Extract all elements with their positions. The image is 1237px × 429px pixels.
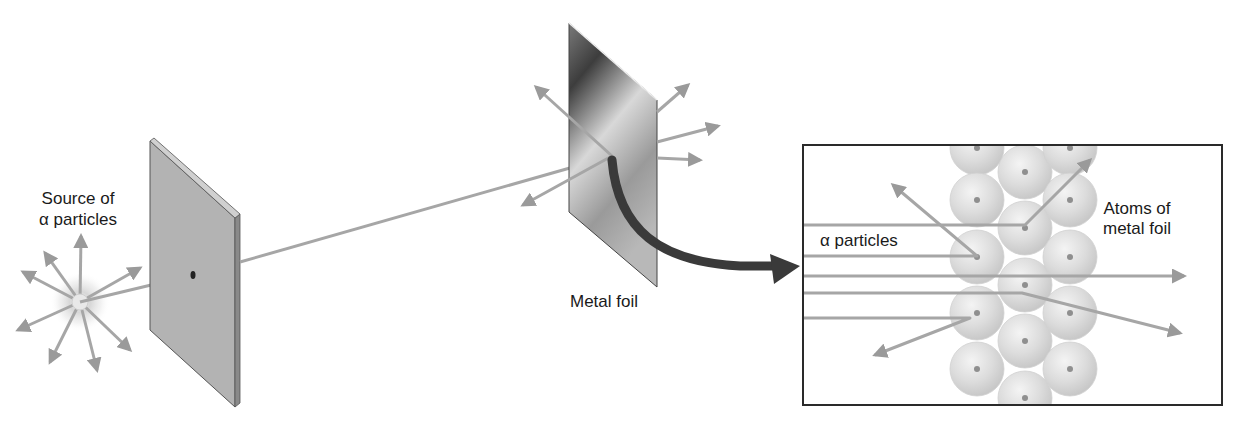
- atom: [1043, 342, 1097, 396]
- atom: [998, 258, 1052, 312]
- nucleus: [974, 197, 980, 203]
- nucleus: [1022, 169, 1028, 175]
- source-ray-arrow: [80, 236, 81, 302]
- nucleus: [974, 366, 980, 372]
- scatter-ray-arrow: [657, 158, 700, 160]
- lead-screen: [150, 138, 240, 407]
- metal-foil-label: Metal foil: [570, 292, 638, 312]
- alpha-beam: [240, 156, 612, 262]
- source-label-line1: Source of: [42, 189, 115, 209]
- atom: [1043, 121, 1097, 175]
- metal-foil: [569, 23, 657, 287]
- nucleus: [1022, 395, 1028, 401]
- atom: [950, 121, 1004, 175]
- atomic-view-inset: [803, 121, 1222, 425]
- nucleus: [1067, 366, 1073, 372]
- scatter-ray-arrow: [657, 85, 688, 112]
- atom: [998, 314, 1052, 368]
- foil-atoms: [950, 121, 1097, 425]
- nucleus: [1067, 254, 1073, 260]
- rutherford-experiment-diagram: Source of α particles Metal foil α parti…: [0, 0, 1237, 429]
- nucleus: [1022, 338, 1028, 344]
- scatter-ray-arrow: [657, 126, 718, 142]
- atom: [998, 201, 1052, 255]
- atom: [1043, 286, 1097, 340]
- atom: [998, 371, 1052, 425]
- source-label-line2: α particles: [39, 210, 117, 230]
- pinhole: [191, 271, 196, 279]
- atoms-label-line1: Atoms of: [1103, 199, 1170, 219]
- nucleus: [1067, 310, 1073, 316]
- atoms-label-line2: metal foil: [1103, 219, 1171, 239]
- diagram-canvas: [0, 0, 1237, 429]
- atom: [950, 173, 1004, 227]
- inset-alpha-particles-label: α particles: [820, 231, 898, 251]
- nucleus: [974, 310, 980, 316]
- nucleus: [1022, 282, 1028, 288]
- atom: [950, 342, 1004, 396]
- alpha-source: [18, 236, 140, 370]
- nucleus: [1067, 197, 1073, 203]
